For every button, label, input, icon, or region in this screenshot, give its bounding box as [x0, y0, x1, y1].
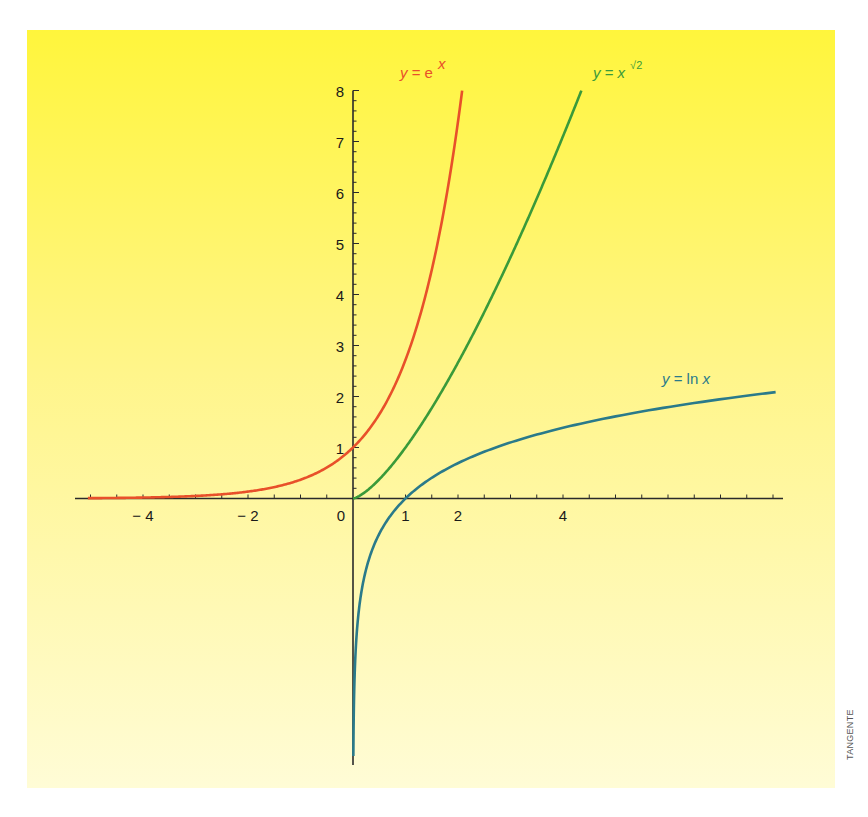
- x-tick-label: 1: [401, 507, 409, 524]
- function-graph: − 4− 2012412345678 y = exy = x√2y = ln x: [0, 0, 868, 817]
- y-tick-label: 6: [336, 185, 344, 202]
- x-tick-label: − 2: [237, 507, 258, 524]
- y-tick-label: 3: [336, 338, 344, 355]
- x-tick-label: 0: [337, 507, 345, 524]
- y-tick-label: 2: [336, 389, 344, 406]
- x-tick-label: 2: [454, 507, 462, 524]
- x-tick-label: 4: [559, 507, 567, 524]
- image-credit: TANGENTE: [845, 709, 855, 760]
- y-tick-label: 4: [336, 287, 344, 304]
- y-tick-label: 5: [336, 236, 344, 253]
- y-tick-label: 1: [336, 440, 344, 457]
- curve-label-ln: y = ln x: [661, 370, 710, 387]
- x-tick-label: − 4: [132, 507, 153, 524]
- y-tick-label: 8: [336, 83, 344, 100]
- y-tick-label: 7: [336, 134, 344, 151]
